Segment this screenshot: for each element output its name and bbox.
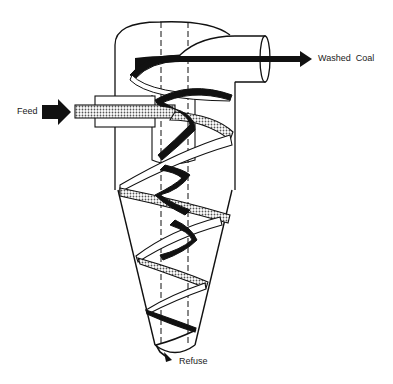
outer-spiral-flow — [120, 112, 233, 358]
refuse-arrow — [164, 352, 172, 362]
feed-label: Feed — [17, 106, 38, 116]
washed-coal-label: Washed Coal — [318, 53, 374, 63]
refuse-label: Refuse — [179, 356, 208, 366]
feed-arrow — [42, 99, 71, 125]
